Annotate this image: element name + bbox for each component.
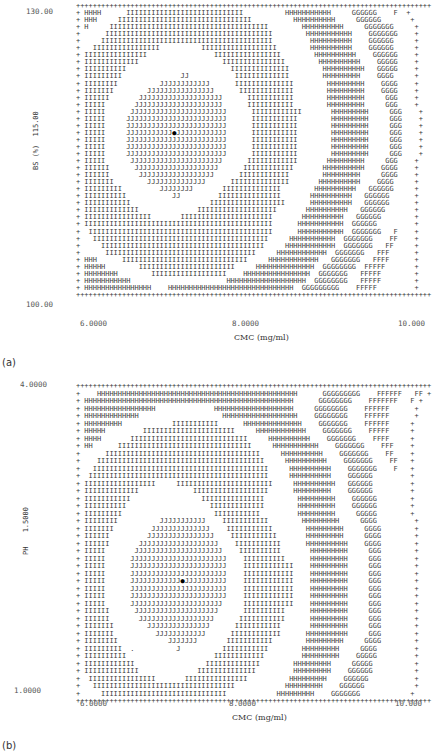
y-tick-mid: 115.00	[32, 111, 40, 136]
x-tick-mid: 8.0000	[232, 319, 259, 328]
chart-b: 4.0000 1.0000 PH 1.5000 ++++++++++++++++…	[0, 370, 435, 752]
chart-a: 130.00 100.00 BS (%) 115.00 ++++++++++++…	[0, 0, 435, 370]
contour-plot-b: ++++++++++++++++++++++++++++++++++++++++…	[76, 383, 434, 706]
x-tick-right: 10.000	[395, 699, 422, 708]
x-tick-left: 6.0000	[80, 319, 107, 328]
x-axis-title: CMC (mg/ml)	[234, 333, 289, 342]
y-axis-title: PH 1.5000	[22, 507, 30, 555]
y-tick-bottom: 100.00	[26, 300, 53, 309]
x-tick-left: 6.0000	[80, 699, 107, 708]
y-tick-top: 4.0000	[20, 380, 47, 389]
y-axis-title: BS (%) 115.00	[32, 111, 40, 170]
x-tick-right: 10.000	[398, 319, 425, 328]
plot-row: ++++++++++++++++++++++++++++++++++++++++…	[76, 292, 431, 299]
y-tick-mid: 1.5000	[22, 507, 30, 532]
panel-label-b: (b)	[2, 740, 16, 751]
y-axis-label: PH	[22, 547, 30, 555]
x-axis-title: CMC (mg/ml)	[232, 713, 287, 722]
panel-label-a: (a)	[2, 357, 16, 368]
x-tick-mid: 8.0000	[229, 699, 256, 708]
contour-plot-a: ++++++++++++++++++++++++++++++++++++++++…	[76, 3, 434, 299]
y-tick-bottom: 1.0000	[14, 686, 41, 695]
y-tick-top: 130.00	[26, 7, 53, 16]
y-axis-label: BS (%)	[32, 145, 40, 170]
